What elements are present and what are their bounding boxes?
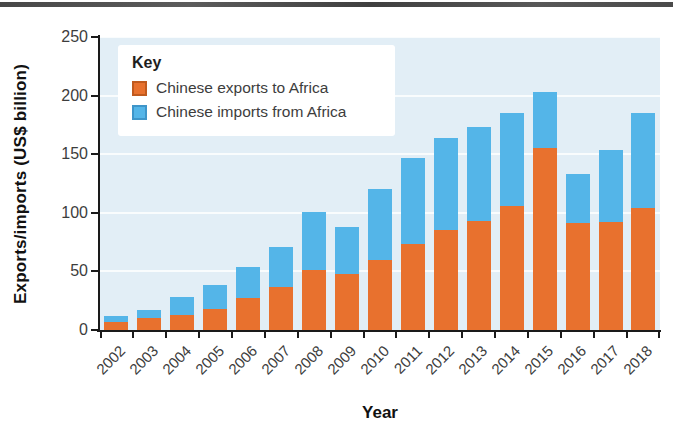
bar-segment-2018-exports — [631, 208, 655, 330]
y-axis-line — [98, 35, 100, 332]
x-tick-label-2011: 2011 — [390, 342, 425, 377]
bar-segment-2017-exports — [599, 222, 623, 330]
stacked-bar-2014 — [500, 113, 524, 330]
x-tick — [560, 331, 562, 338]
bar-segment-2002-exports — [104, 322, 128, 330]
x-tick-label-2002: 2002 — [93, 342, 129, 378]
x-tick-label-2015: 2015 — [521, 342, 557, 378]
bar-segment-2004-imports — [170, 297, 194, 315]
stacked-bar-2004 — [170, 297, 194, 330]
legend-row-imports: Chinese imports from Africa — [132, 103, 381, 121]
bar-segment-2006-exports — [236, 298, 260, 330]
y-tick-label-200: 200 — [46, 87, 88, 105]
x-tick-label-2012: 2012 — [422, 342, 458, 378]
stacked-bar-2002 — [104, 316, 128, 330]
bar-slot-2018: 2018 — [627, 37, 660, 330]
bar-slot-2017: 2017 — [594, 37, 627, 330]
bar-segment-2005-exports — [203, 309, 227, 330]
bar-segment-2003-exports — [137, 318, 161, 330]
x-tick — [264, 331, 266, 338]
x-tick — [527, 331, 529, 338]
bar-segment-2006-imports — [236, 267, 260, 299]
bar-segment-2016-exports — [566, 223, 590, 330]
stacked-bar-2015 — [533, 92, 557, 330]
x-tick-label-2013: 2013 — [455, 342, 491, 378]
chart-figure: Exports/imports (US$ billion) 2002200320… — [0, 0, 673, 441]
x-tick — [494, 331, 496, 338]
bar-segment-2015-exports — [533, 148, 557, 330]
bar-slot-2013: 2013 — [462, 37, 495, 330]
bar-segment-2004-exports — [170, 315, 194, 330]
x-tick — [363, 331, 365, 338]
stacked-bar-2008 — [302, 212, 326, 330]
bar-segment-2005-imports — [203, 285, 227, 308]
x-tick — [297, 331, 299, 338]
x-tick-label-2004: 2004 — [159, 342, 195, 378]
x-tick-label-2018: 2018 — [620, 342, 656, 378]
x-tick — [330, 331, 332, 338]
bar-segment-2018-imports — [631, 113, 655, 208]
stacked-bar-2017 — [599, 150, 623, 330]
bar-segment-2013-exports — [467, 221, 491, 330]
x-tick-label-2008: 2008 — [290, 342, 326, 378]
x-tick — [395, 331, 397, 338]
bar-segment-2011-imports — [401, 158, 425, 245]
bar-slot-2014: 2014 — [495, 37, 528, 330]
y-tick-label-150: 150 — [46, 145, 88, 163]
bar-segment-2007-exports — [269, 287, 293, 330]
bar-segment-2014-imports — [500, 113, 524, 206]
x-tick — [231, 331, 233, 338]
stacked-bar-2018 — [631, 113, 655, 330]
y-tick-label-100: 100 — [46, 204, 88, 222]
x-tick-label-2006: 2006 — [225, 342, 261, 378]
legend-row-exports: Chinese exports to Africa — [132, 79, 381, 97]
stacked-bar-2013 — [467, 127, 491, 330]
bar-segment-2008-exports — [302, 270, 326, 330]
bar-slot-2011: 2011 — [396, 37, 429, 330]
stacked-bar-2011 — [401, 158, 425, 330]
x-tick-label-2003: 2003 — [126, 342, 162, 378]
bar-segment-2003-imports — [137, 310, 161, 318]
x-tick-label-2005: 2005 — [192, 342, 228, 378]
y-tick-label-50: 50 — [46, 262, 88, 280]
bar-segment-2011-exports — [401, 244, 425, 330]
x-tick — [461, 331, 463, 338]
x-tick-label-2007: 2007 — [258, 342, 294, 378]
bar-segment-2009-imports — [335, 227, 359, 274]
page-edge-band — [0, 2, 673, 7]
x-tick — [132, 331, 134, 338]
bar-segment-2012-exports — [434, 230, 458, 330]
y-tick-label-0: 0 — [46, 321, 88, 339]
legend-key-box: Key Chinese exports to Africa Chinese im… — [118, 45, 395, 136]
bar-segment-2010-imports — [368, 189, 392, 259]
x-tick-label-2017: 2017 — [587, 342, 623, 378]
y-tick-50 — [91, 270, 98, 272]
bar-slot-2012: 2012 — [429, 37, 462, 330]
y-tick-0 — [91, 329, 98, 331]
stacked-bar-2005 — [203, 285, 227, 330]
y-tick-100 — [91, 212, 98, 214]
stacked-bar-2009 — [335, 227, 359, 330]
bar-segment-2016-imports — [566, 174, 590, 223]
x-axis-title: Year — [100, 403, 660, 423]
x-tick — [658, 331, 660, 338]
x-tick — [100, 331, 102, 338]
x-tick-label-2016: 2016 — [554, 342, 590, 378]
x-ticks — [100, 331, 660, 339]
stacked-bar-2007 — [269, 247, 293, 330]
bar-segment-2010-exports — [368, 260, 392, 330]
x-tick — [626, 331, 628, 338]
y-tick-250 — [91, 36, 98, 38]
bar-segment-2017-imports — [599, 150, 623, 223]
stacked-bar-2006 — [236, 267, 260, 330]
x-tick-label-2009: 2009 — [323, 342, 359, 378]
bar-segment-2012-imports — [434, 138, 458, 231]
bar-segment-2009-exports — [335, 274, 359, 330]
x-tick-label-2014: 2014 — [488, 342, 524, 378]
bar-segment-2008-imports — [302, 212, 326, 271]
bar-segment-2014-exports — [500, 206, 524, 330]
bar-slot-2016: 2016 — [561, 37, 594, 330]
bar-segment-2015-imports — [533, 92, 557, 148]
stacked-bar-2012 — [434, 138, 458, 330]
x-tick-label-2010: 2010 — [356, 342, 392, 378]
